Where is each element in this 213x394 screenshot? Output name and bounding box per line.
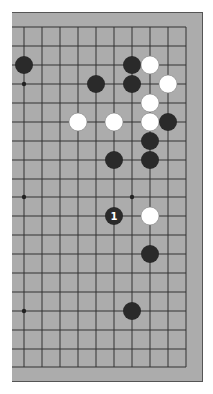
star-point: [22, 195, 26, 199]
white-stone: [105, 113, 123, 131]
white-stone: [141, 113, 159, 131]
black-stone: [105, 151, 123, 169]
black-stone: [141, 245, 159, 263]
star-point: [130, 195, 134, 199]
star-point: [22, 82, 26, 86]
white-stone: [141, 207, 159, 225]
black-stone: [123, 302, 141, 320]
black-stone: [141, 132, 159, 150]
star-point: [22, 309, 26, 313]
black-stone: [123, 56, 141, 74]
black-stone: [159, 113, 177, 131]
white-stone: [159, 75, 177, 93]
white-stone: [69, 113, 87, 131]
white-stone: [141, 56, 159, 74]
black-stone: [141, 151, 159, 169]
black-stone: [123, 75, 141, 93]
board-grid: 1: [0, 0, 213, 394]
white-stone: [141, 94, 159, 112]
black-stone: [87, 75, 105, 93]
move-number-label: 1: [111, 211, 118, 222]
black-stone: [15, 56, 33, 74]
